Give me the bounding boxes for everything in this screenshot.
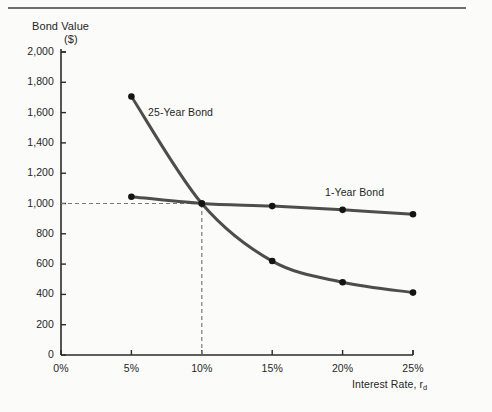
y-axis-title-line1: Bond Value bbox=[32, 20, 89, 32]
x-tick-label: 0% bbox=[41, 362, 81, 374]
x-axis-title: Interest Rate, rd bbox=[352, 378, 427, 390]
y-tick-label: 600 bbox=[8, 257, 54, 269]
x-tick-label: 25% bbox=[393, 362, 433, 374]
y-tick-label: 1,000 bbox=[8, 197, 54, 209]
y-tick-label: 1,600 bbox=[8, 106, 54, 118]
x-axis-title-subscript: d bbox=[423, 383, 427, 392]
data-point bbox=[199, 200, 206, 207]
data-point bbox=[410, 289, 417, 296]
data-point bbox=[269, 258, 276, 265]
y-tick-label: 400 bbox=[8, 287, 54, 299]
x-tick-label: 10% bbox=[182, 362, 222, 374]
y-tick-label: 1,400 bbox=[8, 136, 54, 148]
y-tick-label: 1,800 bbox=[8, 75, 54, 87]
data-point bbox=[128, 193, 135, 200]
y-tick-label: 1,200 bbox=[8, 166, 54, 178]
y-axis-title-line2: ($) bbox=[64, 33, 78, 45]
x-tick-label: 5% bbox=[111, 362, 151, 374]
series-label-1-year-bond: 1-Year Bond bbox=[325, 186, 384, 198]
axes-group bbox=[61, 49, 413, 355]
y-tick-label: 800 bbox=[8, 227, 54, 239]
y-tick-label: 2,000 bbox=[8, 45, 54, 57]
data-point bbox=[128, 93, 135, 100]
data-point bbox=[410, 211, 417, 218]
reference-lines-group bbox=[61, 204, 202, 356]
data-point bbox=[269, 203, 276, 210]
x-axis-title-text: Interest Rate, r bbox=[352, 378, 423, 390]
data-point bbox=[339, 207, 346, 214]
x-tick-label: 15% bbox=[252, 362, 292, 374]
x-tick-label: 20% bbox=[323, 362, 363, 374]
chart-svg bbox=[0, 0, 492, 412]
data-point bbox=[339, 279, 346, 286]
series-label-25-year-bond: 25-Year Bond bbox=[148, 106, 213, 118]
y-tick-label: 0 bbox=[8, 348, 54, 360]
figure-container: Bond Value ($) 02004006008001,0001,2001,… bbox=[0, 0, 492, 412]
plot-area bbox=[0, 0, 492, 412]
y-tick-label: 200 bbox=[8, 318, 54, 330]
